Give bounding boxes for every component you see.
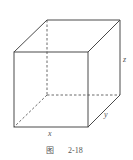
- cuboid-diagram: z y x 图 2-18: [0, 0, 133, 160]
- label-x: x: [47, 129, 52, 138]
- edge-top-right-depth: [88, 20, 120, 52]
- label-z: z: [122, 55, 127, 64]
- label-y: y: [103, 110, 108, 119]
- front-face: [14, 52, 88, 127]
- edge-top-left-depth: [14, 20, 47, 52]
- figure-caption-number: 2-18: [68, 146, 83, 155]
- figure-caption-prefix: 图: [46, 146, 54, 155]
- hidden-edge-bottom-left-depth: [14, 95, 47, 127]
